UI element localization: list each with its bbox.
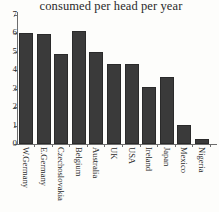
bar (195, 139, 209, 144)
x-tick-mark (104, 144, 105, 147)
x-tick-mark (175, 144, 176, 147)
bar (37, 34, 51, 144)
x-tick-mark (210, 144, 211, 147)
bar (142, 87, 156, 144)
bars-group (0, 0, 219, 212)
bar (107, 64, 121, 144)
x-axis-label: Ireland (145, 147, 154, 171)
x-tick-mark (34, 144, 35, 147)
x-tick-mark (69, 144, 70, 147)
x-axis-label: W.Germany (22, 147, 31, 188)
x-axis-label: USA (127, 147, 136, 164)
x-axis-label: Mexico (180, 147, 189, 173)
x-axis-label: UK (110, 147, 119, 159)
bar (160, 77, 174, 144)
x-tick-mark (140, 144, 141, 147)
bar (177, 125, 191, 144)
x-tick-mark (192, 144, 193, 147)
x-tick-mark (157, 144, 158, 147)
x-tick-mark (87, 144, 88, 147)
x-axis-label: Nigeria (198, 147, 207, 173)
x-tick-mark (52, 144, 53, 147)
bar (19, 33, 33, 144)
x-axis-label: Belgium (74, 147, 83, 176)
x-axis-label: Czechoslovakia (57, 147, 66, 201)
x-axis-label: Australia (92, 147, 101, 178)
bar (125, 64, 139, 144)
x-tick-mark (122, 144, 123, 147)
bar (89, 52, 103, 145)
bar (54, 54, 68, 144)
x-axis-label: E.Germany (39, 147, 48, 186)
bar (72, 31, 86, 144)
bar-chart: consumed per head per year 01234567 W.Ge… (0, 0, 219, 212)
x-axis-label: Japan (162, 147, 171, 166)
